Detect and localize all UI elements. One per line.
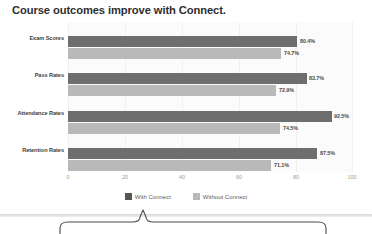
bar-value-with-connect-attendance-rates: 92.5% bbox=[334, 113, 349, 119]
bar-group-attendance-rates: 92.5% 74.5% bbox=[68, 105, 353, 143]
bar-value-without-connect-attendance-rates: 74.5% bbox=[283, 125, 298, 131]
bar-with-connect-attendance-rates[interactable] bbox=[68, 111, 332, 122]
bar-without-connect-attendance-rates[interactable] bbox=[68, 123, 280, 134]
bar-value-without-connect-retention-rates: 71.1% bbox=[274, 162, 289, 168]
bar-without-connect-pass-rates[interactable] bbox=[68, 85, 276, 96]
category-label-exam-scores: Exam Scores bbox=[0, 35, 64, 41]
bar-value-with-connect-exam-scores: 80.4% bbox=[300, 38, 315, 44]
bar-value-without-connect-pass-rates: 72.9% bbox=[279, 87, 294, 93]
bar-group-pass-rates: 83.7% 72.9% bbox=[68, 67, 353, 105]
category-label-pass-rates: Pass Rates bbox=[0, 72, 64, 78]
chart-title: Course outcomes improve with Connect. bbox=[12, 4, 226, 16]
legend-swatch-icon-with-connect bbox=[125, 193, 132, 200]
bar-value-with-connect-retention-rates: 87.5% bbox=[320, 150, 335, 156]
legend-label-with-connect: With Connect bbox=[135, 194, 171, 200]
bar-chart-figure: Course outcomes improve with Connect. Ex… bbox=[0, 0, 372, 234]
plot-area: 80.4% 74.7% 83.7% 72.9% 92.5% 74.5% 87.5… bbox=[68, 22, 353, 172]
legend-item-with-connect[interactable]: With Connect bbox=[125, 193, 171, 200]
bar-group-exam-scores: 80.4% 74.7% bbox=[68, 30, 353, 68]
bar-value-with-connect-pass-rates: 83.7% bbox=[309, 75, 324, 81]
brace-callout-icon bbox=[0, 206, 372, 234]
x-tick-100: 100 bbox=[348, 174, 357, 180]
legend-swatch-icon-without-connect bbox=[193, 193, 200, 200]
x-tick-80: 80 bbox=[293, 174, 299, 180]
x-tick-20: 20 bbox=[122, 174, 128, 180]
bar-with-connect-retention-rates[interactable] bbox=[68, 148, 317, 159]
bar-without-connect-retention-rates[interactable] bbox=[68, 160, 271, 171]
bar-value-without-connect-exam-scores: 74.7% bbox=[284, 50, 299, 56]
bar-with-connect-pass-rates[interactable] bbox=[68, 73, 307, 84]
x-tick-40: 40 bbox=[179, 174, 185, 180]
legend-item-without-connect[interactable]: Without Connect bbox=[193, 193, 247, 200]
category-label-retention-rates: Retention Rates bbox=[0, 147, 64, 153]
chart-legend: With Connect Without Connect bbox=[0, 193, 372, 200]
bar-with-connect-exam-scores[interactable] bbox=[68, 36, 297, 47]
category-label-attendance-rates: Attendance Rates bbox=[0, 110, 64, 116]
legend-label-without-connect: Without Connect bbox=[203, 194, 247, 200]
bar-without-connect-exam-scores[interactable] bbox=[68, 48, 281, 59]
x-tick-60: 60 bbox=[236, 174, 242, 180]
x-tick-0: 0 bbox=[67, 174, 70, 180]
x-axis: 0 20 40 60 80 100 bbox=[68, 174, 353, 184]
